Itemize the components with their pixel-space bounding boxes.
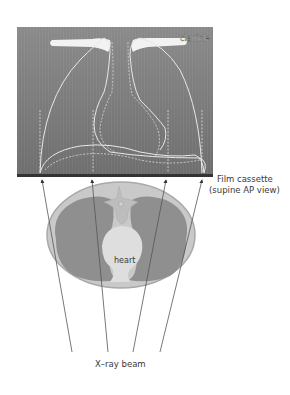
- supine-chest-xray-diagram: clavicle Film cassette (supine AP view) …: [0, 0, 290, 395]
- clavicle-label: clavicle: [180, 34, 210, 43]
- xray-beam-label: X–ray beam: [95, 359, 146, 369]
- film-cassette-label-line2: (supine AP view): [209, 185, 280, 195]
- heart-label: heart: [114, 256, 135, 265]
- film-cassette-label-line1: Film cassette: [217, 174, 273, 184]
- thorax-cross-section: heart: [47, 182, 195, 288]
